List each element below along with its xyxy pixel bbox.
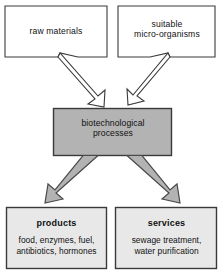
products-body: food, enzymes, fuel, antibiotics, hormon… xyxy=(5,235,108,257)
diagram-canvas: raw materials suitable micro-organisms b… xyxy=(0,0,224,273)
arrow-process-to-products xyxy=(45,156,98,204)
products-title: products xyxy=(7,218,106,228)
arrow-raw-materials-to-process xyxy=(58,53,105,107)
micro-organisms-label: suitable micro-organisms xyxy=(119,19,215,40)
services-title: services xyxy=(116,218,217,228)
arrow-process-to-services xyxy=(127,156,180,204)
services-body: sewage treatment, water purification xyxy=(115,235,218,257)
raw-materials-label: raw materials xyxy=(6,26,106,36)
biotechnological-processes-label: biotechnological processes xyxy=(55,118,171,139)
arrow-micro-organisms-to-process xyxy=(127,53,170,105)
